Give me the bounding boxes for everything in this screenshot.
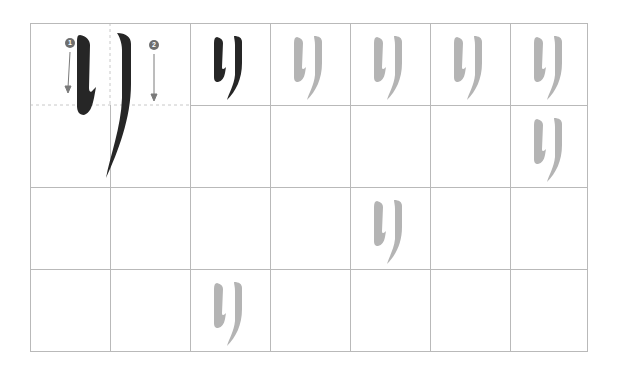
practice-cell-r3c7[interactable]	[510, 187, 590, 269]
practice-cell-r3c3[interactable]	[190, 187, 270, 269]
practice-cell-r2c5[interactable]	[350, 105, 430, 187]
practice-cell-r3c2[interactable]	[110, 187, 190, 269]
practice-cell-r2c6[interactable]	[430, 105, 510, 187]
sample-solid	[214, 36, 242, 100]
practice-cell-r4c1[interactable]	[30, 269, 110, 351]
practice-cell-r4c5[interactable]	[350, 269, 430, 351]
practice-cell-r4c7[interactable]	[510, 269, 590, 351]
stroke-number-badge-2: 2	[149, 40, 159, 50]
practice-cell-r3c1[interactable]	[30, 187, 110, 269]
practice-cell-r4c2[interactable]	[110, 269, 190, 351]
practice-cell-r3c4[interactable]	[270, 187, 350, 269]
model-guide-lines	[30, 23, 190, 105]
practice-cell-r4c6[interactable]	[430, 269, 510, 351]
stroke-number-badge-1: 1	[65, 38, 75, 48]
practice-cell-r4c4[interactable]	[270, 269, 350, 351]
practice-cell-r2c3[interactable]	[190, 105, 270, 187]
practice-cell-r3c6[interactable]	[430, 187, 510, 269]
practice-cell-r2c4[interactable]	[270, 105, 350, 187]
model-stroke-1	[77, 35, 96, 115]
practice-cell-r2c1[interactable]	[30, 105, 110, 187]
practice-worksheet: り	[0, 0, 617, 371]
practice-cell-r2c2[interactable]	[110, 105, 190, 187]
